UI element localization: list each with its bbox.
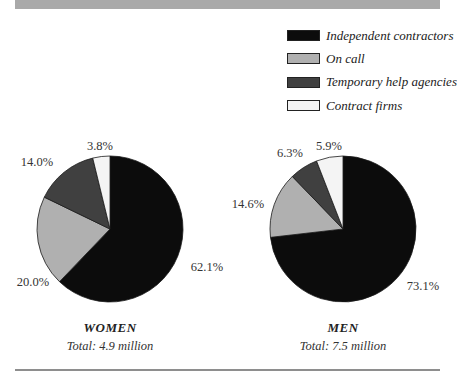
pie-women: [37, 156, 183, 302]
data-label-women-contract-firms: 3.8%: [87, 139, 113, 154]
data-label-men-contract-firms: 5.9%: [316, 139, 342, 154]
pie-men: [270, 156, 416, 302]
data-label-women-temporary-help: 14.0%: [21, 155, 53, 170]
pie-title-men: MEN: [327, 320, 358, 336]
pie-total-women: Total: 4.9 million: [67, 339, 154, 354]
pie-total-men: Total: 7.5 million: [300, 339, 387, 354]
bottom-rule: [15, 369, 440, 371]
data-label-women-on-call: 20.0%: [17, 275, 49, 290]
data-label-women-independent: 62.1%: [191, 260, 223, 275]
data-label-men-temporary-help: 6.3%: [277, 146, 303, 161]
pie-title-women: WOMEN: [83, 320, 136, 336]
data-label-men-on-call: 14.6%: [232, 197, 264, 212]
data-label-men-independent: 73.1%: [407, 279, 439, 294]
